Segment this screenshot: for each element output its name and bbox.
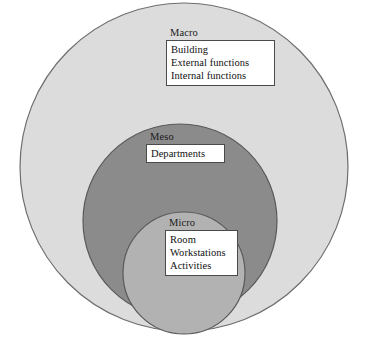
micro-items-box: Room Workstations Activities <box>165 230 238 276</box>
micro-item-1: Room <box>170 233 233 246</box>
macro-item-1: Building <box>171 43 270 56</box>
micro-item-2: Workstations <box>170 246 233 259</box>
micro-level-group: Micro Room Workstations Activities <box>165 217 238 276</box>
nested-scale-diagram: Macro Building External functions Intern… <box>0 0 365 349</box>
macro-level-group: Macro Building External functions Intern… <box>166 27 275 86</box>
meso-item-1: Departments <box>151 147 220 160</box>
meso-items-box: Departments <box>146 144 225 163</box>
macro-items-box: Building External functions Internal fun… <box>166 40 275 86</box>
micro-item-3: Activities <box>170 259 233 272</box>
meso-label: Meso <box>150 131 174 143</box>
macro-item-2: External functions <box>171 56 270 69</box>
micro-label: Micro <box>169 217 195 229</box>
macro-item-3: Internal functions <box>171 69 270 82</box>
macro-label: Macro <box>170 27 198 39</box>
meso-level-group: Meso Departments <box>146 131 225 163</box>
